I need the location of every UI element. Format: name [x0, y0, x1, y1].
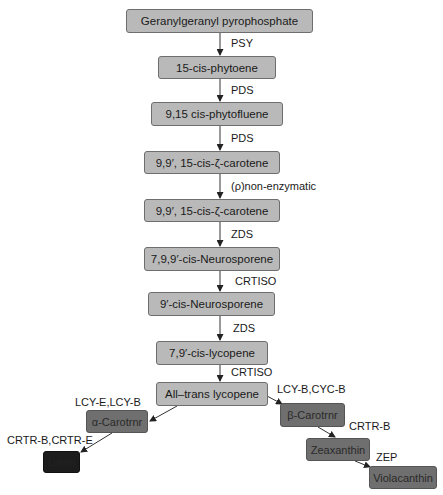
edge-label-zds-2: ZDS [233, 322, 255, 334]
node-all-trans-lycopene: All–trans lycopene [156, 382, 268, 406]
edge-label-zep: ZEP [376, 451, 397, 463]
node-zeaxanthin: Zeaxanthin [306, 438, 370, 461]
edge-label-pds-1: PDS [231, 84, 254, 96]
edge-label-crtr-b-crtr-e: CRTR-B,CRTR-E [7, 434, 93, 446]
node-9-cis-neurosporene: 9′-cis-Neurosporene [148, 292, 275, 316]
edge-label-crtr-b: CRTR-B [349, 420, 390, 432]
node-beta-carotene: β-Carotrnr [280, 403, 345, 427]
edge-label-zds-1: ZDS [231, 228, 253, 240]
node-7-9-cis-lycopene: 7,9′-cis-lycopene [156, 341, 268, 365]
edge-label-lcy-e-lcy-b: LCY-E,LCY-B [75, 396, 141, 408]
edge-label-crtiso-1: CRTISO [235, 275, 276, 287]
node-zeta-carotene-1: 9,9′, 15-cis-ζ-carotene [144, 151, 280, 174]
node-zeta-carotene-2: 9,9′, 15-cis-ζ-carotene [144, 199, 280, 222]
node-alpha-carotene: α-Carotrnr [86, 410, 148, 433]
edge-label-psy: PSY [231, 37, 253, 49]
node-geranylgeranyl-pyrophosphate: Geranylgeranyl pyrophosphate [126, 9, 313, 33]
edge-label-pds-2: PDS [231, 132, 254, 144]
edge-label-crtiso-2: CRTISO [231, 366, 272, 378]
node-violacanthin: Violacanthin [369, 466, 437, 489]
edge-label-non-enzymatic: (ρ)non-enzymatic [231, 180, 316, 192]
node-15-cis-phytoene: 15-cis-phytoene [158, 56, 276, 79]
edge-label-lcy-b-cyc-b: LCY-B,CYC-B [277, 383, 346, 395]
node-7-9-9-cis-neurosporene: 7,9,9′-cis-Neurosporene [144, 247, 280, 271]
node-9-15-cis-phytofluene: 9,15 cis-phytofluene [151, 102, 283, 126]
node-lutein: Lutein [43, 451, 80, 473]
